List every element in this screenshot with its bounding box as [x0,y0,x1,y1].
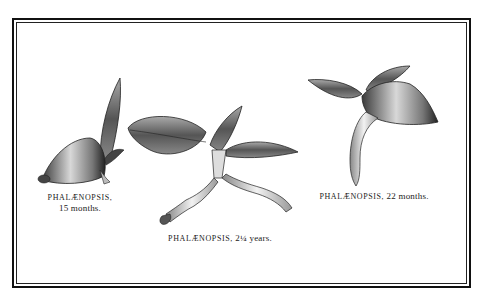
plant-2-and-quarter-years [128,106,298,224]
caption-species: PHALÆNOPSIS, [319,192,384,201]
caption-15-months: PHALÆNOPSIS, 15 months. [38,193,122,213]
plant-22-months [308,66,438,186]
caption-age: 22 months. [387,191,429,201]
caption-age: 15 months. [38,203,122,213]
plant-15-months [38,78,124,184]
caption-species: PHALÆNOPSIS, [168,234,233,243]
caption-22-months: PHALÆNOPSIS, 22 months. [314,191,434,202]
engraving-illustrations [0,0,481,299]
caption-species: PHALÆNOPSIS, [38,193,122,203]
caption-2-and-quarter-years: PHALÆNOPSIS, 2¼ years. [160,233,280,244]
caption-age: 2¼ years. [235,233,272,243]
